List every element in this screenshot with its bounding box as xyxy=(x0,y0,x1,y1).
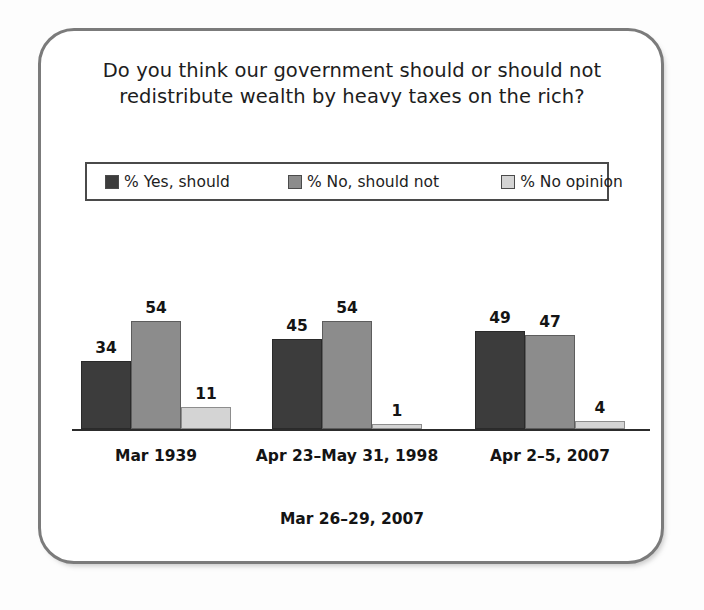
bar-value-label-1-2: 1 xyxy=(372,402,422,420)
bar-2-2[interactable] xyxy=(575,421,625,429)
bar-value-label-0-0: 34 xyxy=(81,339,131,357)
category-label-1: Apr 23–May 31, 1998 xyxy=(242,447,452,465)
bar-value-label-2-2: 4 xyxy=(575,399,625,417)
bar-0-1[interactable] xyxy=(131,321,181,429)
figure-container: Do you think our government should or sh… xyxy=(0,0,704,610)
bar-0-2[interactable] xyxy=(181,407,231,429)
bar-value-label-0-2: 11 xyxy=(181,385,231,403)
bar-value-label-2-1: 47 xyxy=(525,313,575,331)
category-label-0: Mar 1939 xyxy=(51,447,261,465)
bar-value-label-0-1: 54 xyxy=(131,299,181,317)
bar-1-2[interactable] xyxy=(372,424,422,429)
x-axis-baseline xyxy=(72,429,650,431)
bar-value-label-1-0: 45 xyxy=(272,317,322,335)
bar-value-label-1-1: 54 xyxy=(322,299,372,317)
category-label-2: Apr 2–5, 2007 xyxy=(445,447,655,465)
footer-note: Mar 26–29, 2007 xyxy=(0,510,704,528)
bar-1-1[interactable] xyxy=(322,321,372,429)
bar-1-0[interactable] xyxy=(272,339,322,429)
bar-value-label-2-0: 49 xyxy=(475,309,525,327)
bar-0-0[interactable] xyxy=(81,361,131,429)
bar-2-1[interactable] xyxy=(525,335,575,429)
bar-2-0[interactable] xyxy=(475,331,525,429)
